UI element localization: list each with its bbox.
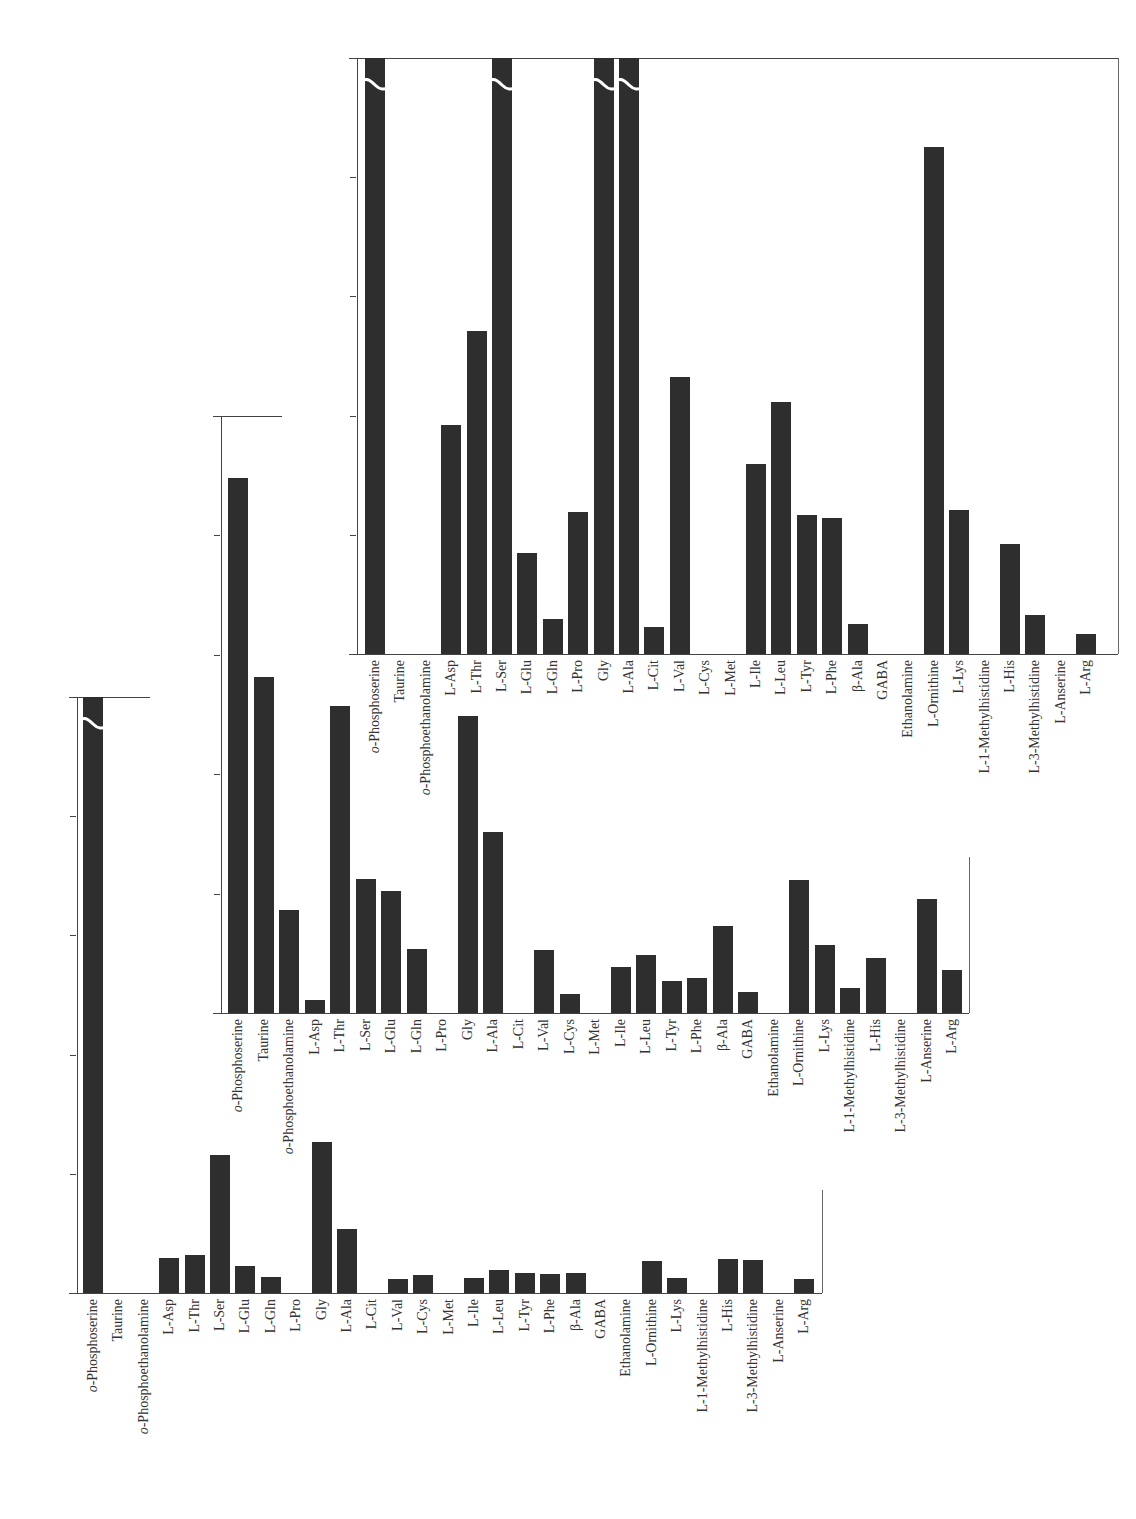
bar-l-ser	[356, 879, 376, 1013]
bar-l-phe	[822, 518, 842, 654]
x-tick-label: L-1-Methylhistidine	[695, 1299, 711, 1413]
label-text: -Phosphoserine	[85, 1299, 100, 1385]
bar-l-ser	[492, 58, 512, 654]
x-tick-label: L-Arg	[944, 1019, 960, 1054]
x-tick-label: o-Phosphoserine	[85, 1299, 101, 1392]
bar-l-arg	[1076, 634, 1096, 654]
italic-prefix: o	[367, 746, 382, 753]
bar-gly	[458, 716, 478, 1013]
top-border	[69, 697, 150, 698]
x-tick-label: Ethanolamine	[766, 1019, 782, 1097]
bar-gly	[312, 1142, 332, 1293]
bar-l-ile	[611, 967, 631, 1013]
x-tick-label: L-Anserine	[919, 1019, 935, 1083]
x-tick-label: L-Leu	[491, 1299, 507, 1334]
x-tick-label: Gly	[460, 1019, 476, 1040]
x-tick-label: L-Glu	[519, 660, 535, 694]
y-axis	[77, 697, 78, 1293]
bar-l-lys	[815, 945, 835, 1013]
x-tick-label: L-Val	[390, 1299, 406, 1331]
bar-l-ser	[210, 1155, 230, 1293]
bar-l-glu	[381, 891, 401, 1013]
y-tick	[350, 177, 356, 178]
x-tick-label: L-Cys	[415, 1299, 431, 1334]
x-tick-label: L-Ornithine	[791, 1019, 807, 1086]
x-tick-label: L-Cit	[364, 1299, 380, 1329]
x-tick-label: L-Cys	[562, 1019, 578, 1054]
bar-l-ile	[746, 464, 766, 654]
italic-prefix: o	[418, 788, 433, 795]
x-tick-label: Ethanolamine	[618, 1299, 634, 1377]
bar-l-arg	[794, 1279, 814, 1293]
bar-l-gln	[407, 949, 427, 1013]
x-axis	[349, 654, 1118, 655]
bar-l-leu	[489, 1270, 509, 1293]
italic-prefix: o	[85, 1385, 100, 1392]
x-tick-label: L-Lys	[951, 660, 967, 693]
right-border	[822, 1190, 823, 1293]
bar-l-ala	[619, 58, 639, 654]
bar-taurine	[254, 677, 274, 1013]
y-tick	[214, 416, 220, 417]
x-tick-label: Ethanolamine	[900, 660, 916, 738]
y-tick	[70, 935, 76, 936]
x-tick-label: L-Gln	[409, 1019, 425, 1053]
x-tick-label: L-Ile	[748, 660, 764, 688]
bar-o-phosphoserine	[83, 697, 103, 1293]
bar-l-ala	[483, 832, 503, 1013]
x-tick-label: Taurine	[392, 660, 408, 703]
bar-l-lys	[949, 510, 969, 654]
bar-l-anserine	[917, 899, 937, 1013]
bar--ala	[848, 624, 868, 654]
y-tick	[350, 535, 356, 536]
y-tick	[70, 697, 76, 698]
x-tick-label: L-Asp	[307, 1019, 323, 1055]
bar-l-thr	[185, 1255, 205, 1293]
bar-l-cit	[644, 627, 664, 654]
x-tick-label: Gly	[596, 660, 612, 681]
bar-l-1-methylhistidine	[840, 988, 860, 1013]
bar-gly	[594, 58, 614, 654]
bar-l-ornithine	[924, 147, 944, 654]
x-tick-label: GABA	[740, 1019, 756, 1059]
x-tick-label: L-Ser	[494, 660, 510, 692]
bar--ala	[566, 1273, 586, 1293]
label-text: -Phosphoserine	[367, 660, 382, 746]
bar-l-val	[388, 1279, 408, 1293]
x-tick-label: Taurine	[256, 1019, 272, 1062]
x-tick-label: L-Arg	[1078, 660, 1094, 695]
bar-l-tyr	[797, 515, 817, 654]
bar-l-phe	[687, 978, 707, 1013]
x-tick-label: L-Pro	[288, 1299, 304, 1332]
x-tick-label: L-Pro	[570, 660, 586, 693]
bar-l-gln	[261, 1277, 281, 1293]
y-tick	[214, 655, 220, 656]
italic-prefix: o	[281, 1147, 296, 1154]
x-axis	[69, 1293, 822, 1294]
x-tick-label: L-Gln	[545, 660, 561, 694]
x-tick-label: o-Phosphoserine	[230, 1019, 246, 1112]
x-tick-label: L-Ala	[621, 660, 637, 693]
x-tick-label: L-Asp	[443, 660, 459, 696]
bar-l-phe	[540, 1274, 560, 1293]
x-tick-label: L-1-Methylhistidine	[977, 660, 993, 774]
bar-l-tyr	[662, 981, 682, 1013]
x-tick-label: β-Ala	[568, 1299, 584, 1331]
label-text: -Phosphoethanolamine	[418, 660, 433, 788]
bar-l-tyr	[515, 1273, 535, 1293]
bar-l-thr	[467, 331, 487, 654]
x-tick-label: L-Met	[441, 1299, 457, 1335]
bar-l-ile	[464, 1278, 484, 1293]
y-axis	[357, 58, 358, 654]
x-tick-label: L-Ornithine	[644, 1299, 660, 1366]
x-tick-label: L-1-Methylhistidine	[842, 1019, 858, 1133]
x-tick-label: L-Phe	[824, 660, 840, 694]
bar-l-val	[534, 950, 554, 1013]
bar-l-cys	[560, 994, 580, 1013]
bar-l-3-methylhistidine	[1025, 615, 1045, 654]
x-tick-label: L-Phe	[689, 1019, 705, 1053]
right-border	[1118, 58, 1119, 654]
bar-gaba	[738, 992, 758, 1013]
x-tick-label: L-Met	[587, 1019, 603, 1055]
x-tick-label: L-Thr	[469, 660, 485, 693]
